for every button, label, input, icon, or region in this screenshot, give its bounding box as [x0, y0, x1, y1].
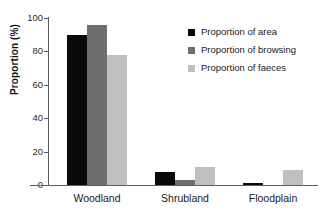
- y-axis-tick-mark: [44, 185, 48, 186]
- bar: [175, 180, 195, 185]
- bar: [283, 170, 303, 185]
- y-axis-tick-label: 80: [32, 46, 43, 56]
- x-axis-category-label: Floodplain: [223, 192, 323, 204]
- x-axis-category-label: Shrubland: [135, 192, 235, 204]
- x-axis-category-label: Woodland: [47, 192, 147, 204]
- legend-label: Proportion of area: [201, 27, 277, 37]
- y-axis-tick-label: 40: [32, 113, 43, 123]
- chart-legend: Proportion of areaProportion of browsing…: [188, 24, 324, 78]
- y-axis-tick-mark: [44, 85, 48, 86]
- y-axis-tick-mark: [44, 51, 48, 52]
- legend-item: Proportion of area: [188, 24, 324, 40]
- y-axis-tick-mark: [44, 152, 48, 153]
- legend-item: Proportion of faeces: [188, 60, 324, 76]
- x-axis-line: [30, 185, 318, 186]
- legend-label: Proportion of faeces: [201, 63, 286, 73]
- bar: [107, 55, 127, 185]
- y-axis-tick-labels: 020406080100: [14, 18, 43, 185]
- y-axis-tick-mark: [44, 18, 48, 19]
- legend-label: Proportion of browsing: [201, 45, 296, 55]
- legend-swatch-icon: [188, 47, 195, 54]
- bar: [195, 167, 215, 185]
- bar: [87, 25, 107, 185]
- legend-item: Proportion of browsing: [188, 42, 324, 58]
- y-axis-tick-label: 60: [32, 80, 43, 90]
- legend-swatch-icon: [188, 29, 195, 36]
- legend-swatch-icon: [188, 65, 195, 72]
- y-axis-tick-label: 20: [32, 147, 43, 157]
- y-axis-tick-label: 100: [27, 13, 43, 23]
- bar: [67, 35, 87, 185]
- bar: [155, 172, 175, 185]
- bar-chart-figure: Proportion (%) 020406080100 Proportion o…: [0, 0, 328, 215]
- bar: [243, 183, 263, 186]
- y-axis-tick-mark: [44, 118, 48, 119]
